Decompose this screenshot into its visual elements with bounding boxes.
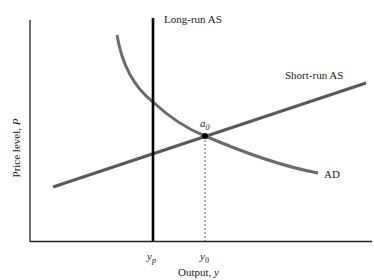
as-ad-diagram: Long-run AS Short-run AS AD a0 yp y0 Out… (0, 0, 374, 280)
y0-sub: 0 (205, 256, 209, 265)
yp-sub: p (151, 256, 156, 265)
short-run-as-label: Short-run AS (285, 69, 343, 81)
short-run-as-line (53, 83, 366, 187)
x-axis-text: Output, (178, 266, 214, 278)
long-run-as-label: Long-run AS (164, 13, 222, 25)
yp-tick-label: yp (146, 250, 156, 265)
equilibrium-point-a0 (202, 133, 208, 139)
y-axis-text: Price level, (10, 125, 22, 177)
y-axis-var: P (10, 118, 22, 126)
a0-sub: 0 (206, 123, 210, 132)
y-axis-label: Price level, P (10, 118, 22, 177)
ad-label: AD (324, 168, 340, 180)
ad-curve (117, 35, 318, 173)
x-axis-var: y (213, 266, 219, 278)
a0-label: a0 (200, 117, 210, 132)
y0-tick-label: y0 (199, 250, 209, 265)
x-axis-label: Output, y (178, 266, 219, 278)
